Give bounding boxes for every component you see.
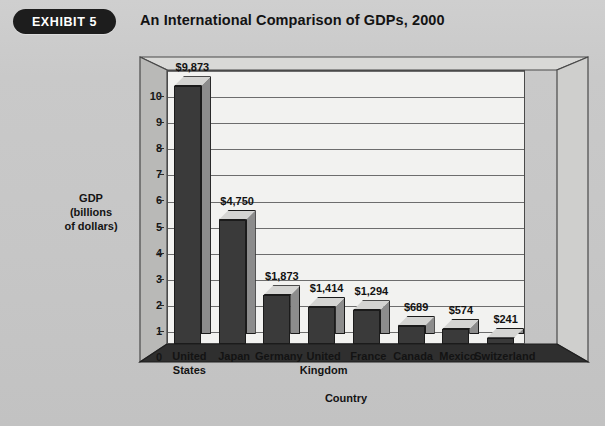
x-tick-label-line: Switzerland	[474, 350, 531, 364]
bar-mexico[interactable]	[442, 319, 479, 344]
bar-switzerland[interactable]	[487, 328, 524, 344]
bar-value-label: $9,873	[166, 61, 219, 73]
y-tick-label: 0	[140, 352, 162, 363]
y-tick-mark	[158, 331, 164, 332]
y-tick-mark	[158, 279, 164, 280]
x-tick-label-line: Kingdom	[295, 364, 352, 378]
bar-front-face	[487, 338, 514, 344]
bar-value-label: $4,750	[211, 195, 264, 207]
y-tick-mark	[158, 305, 164, 306]
bar-front-face	[353, 310, 380, 344]
bar-value-label: $1,294	[345, 285, 398, 297]
y-tick-mark	[158, 148, 164, 149]
y-axis: 10 9 8 7 6 5 4 3 2 1 0	[128, 70, 162, 344]
x-axis-title: Country	[167, 392, 525, 404]
bar-side-face	[246, 210, 256, 334]
y-tick-mark	[158, 174, 164, 175]
bar-side-face	[201, 76, 211, 334]
bar-canada[interactable]	[398, 316, 435, 344]
bar-france[interactable]	[353, 300, 390, 344]
x-tick-label-switzerland: Switzerland	[474, 350, 531, 364]
y-tick-mark	[158, 253, 164, 254]
bar-front-face	[442, 329, 469, 344]
y-tick-mark	[158, 200, 164, 201]
exhibit-badge: EXHIBIT 5	[13, 9, 116, 34]
y-axis-title: GDP (billions of dollars)	[52, 192, 130, 233]
bar-japan[interactable]	[219, 210, 256, 344]
bar-top-face	[487, 328, 524, 338]
y-tick-mark	[158, 227, 164, 228]
bar-front-face	[398, 326, 425, 344]
y-axis-title-line: (billions	[52, 206, 130, 220]
bar-value-label: $241	[479, 313, 532, 325]
bar-series: $9,873$4,750$1,873$1,414$1,294$689$574$2…	[167, 70, 525, 344]
bar-value-label: $1,873	[255, 270, 308, 282]
bar-front-face	[219, 220, 246, 344]
page-background: EXHIBIT 5 An International Comparison of…	[0, 0, 605, 426]
bar-front-face	[308, 307, 335, 344]
y-axis-title-line: GDP	[52, 192, 130, 206]
bar-front-face	[263, 295, 290, 344]
bar-germany[interactable]	[263, 285, 300, 344]
exhibit-header: EXHIBIT 5 An International Comparison of…	[0, 0, 605, 44]
chart-container: 10 9 8 7 6 5 4 3 2 1 0 GDP (billions	[0, 44, 605, 426]
page-title: An International Comparison of GDPs, 200…	[140, 12, 445, 28]
bar-united-states[interactable]	[174, 76, 211, 344]
bar-united-kingdom[interactable]	[308, 297, 345, 344]
y-axis-title-line: of dollars)	[52, 220, 130, 234]
x-axis-labels: UnitedStatesJapanGermanyUnitedKingdomFra…	[167, 350, 539, 390]
y-tick-mark	[158, 96, 164, 97]
x-tick-label-line: States	[161, 364, 218, 378]
y-tick-mark	[158, 122, 164, 123]
bar-front-face	[174, 86, 201, 344]
